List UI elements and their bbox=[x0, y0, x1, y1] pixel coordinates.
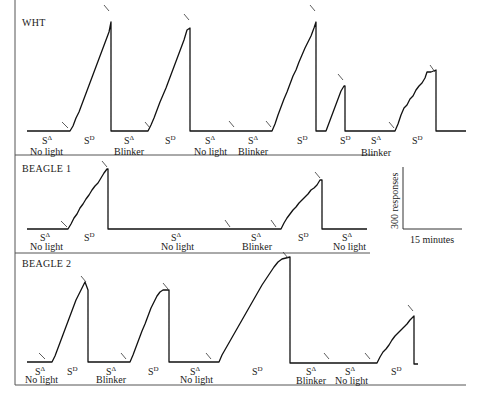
scale-horizontal-label: 15 minutes bbox=[410, 234, 454, 245]
svg-text:SD: SD bbox=[67, 365, 78, 377]
svg-text:SD: SD bbox=[340, 134, 351, 146]
svg-text:SΔ: SΔ bbox=[371, 134, 382, 146]
svg-text:SΔ: SΔ bbox=[42, 134, 53, 146]
panel-title-beagle1: BEAGLE 1 bbox=[22, 163, 71, 174]
svg-text:No light: No light bbox=[180, 374, 213, 385]
panel-wht: WHT SΔ No light SD SΔ Blinker SD SΔ No l… bbox=[22, 5, 466, 158]
svg-text:SD: SD bbox=[391, 365, 402, 377]
arrow-markers-beagle2 bbox=[39, 252, 413, 359]
svg-text:Blinker: Blinker bbox=[361, 147, 392, 158]
svg-text:SD: SD bbox=[297, 134, 308, 146]
svg-text:SD: SD bbox=[165, 134, 176, 146]
condition-labels-beagle2: SΔ No light SD SΔ Blinker SD SΔ No light… bbox=[25, 365, 402, 386]
svg-text:No light: No light bbox=[194, 146, 227, 157]
svg-text:No light: No light bbox=[335, 375, 368, 386]
svg-text:No light: No light bbox=[30, 241, 63, 252]
svg-text:SΔ: SΔ bbox=[248, 134, 259, 146]
svg-text:No light: No light bbox=[333, 241, 366, 252]
svg-text:Blinker: Blinker bbox=[238, 146, 269, 157]
svg-text:Blinker: Blinker bbox=[242, 241, 273, 252]
svg-text:SΔ: SΔ bbox=[124, 134, 135, 146]
svg-text:Blinker: Blinker bbox=[296, 375, 327, 386]
condition-labels-beagle1: SΔ No light SD SΔ No light SΔ Blinker SD… bbox=[30, 231, 366, 252]
svg-text:Blinker: Blinker bbox=[114, 146, 145, 157]
svg-text:SD: SD bbox=[412, 134, 423, 146]
svg-text:SΔ: SΔ bbox=[205, 134, 216, 146]
arrow-markers-beagle1 bbox=[61, 161, 320, 227]
arrow-markers-wht bbox=[62, 5, 435, 128]
panel-title-beagle2: BEAGLE 2 bbox=[22, 258, 71, 269]
condition-labels-wht: SΔ No light SD SΔ Blinker SD SΔ No light… bbox=[30, 134, 423, 158]
svg-text:No light: No light bbox=[30, 146, 63, 157]
scale-vertical-label: 300 responses bbox=[389, 173, 400, 229]
svg-text:No light: No light bbox=[25, 374, 58, 385]
svg-text:SD: SD bbox=[84, 134, 95, 146]
svg-text:SD: SD bbox=[84, 231, 95, 243]
svg-text:SD: SD bbox=[148, 365, 159, 377]
panel-beagle2: BEAGLE 2 SΔ No light SD SΔ Blinker SD SΔ… bbox=[22, 252, 418, 386]
panel-beagle1: BEAGLE 1 SΔ No light SD SΔ No light SΔ B… bbox=[22, 161, 367, 252]
cumulative-record-figure: WHT SΔ No light SD SΔ Blinker SD SΔ No l… bbox=[0, 0, 478, 400]
scale-bar: 300 responses 15 minutes bbox=[389, 167, 462, 245]
svg-text:Blinker: Blinker bbox=[96, 374, 127, 385]
svg-text:SD: SD bbox=[252, 365, 263, 377]
panel-title-wht: WHT bbox=[22, 17, 46, 28]
svg-text:SD: SD bbox=[298, 231, 309, 243]
svg-text:No light: No light bbox=[161, 241, 194, 252]
